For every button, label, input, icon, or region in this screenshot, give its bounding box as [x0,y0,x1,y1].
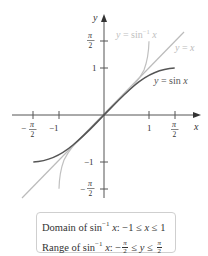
y-tick-label-1: 1 [92,63,97,73]
y-tick-label-minus: − [80,184,85,194]
sin-label: y = sin x [153,75,188,86]
domain-rest: : −1 ≤ [117,222,145,233]
range-rest: : − [110,241,121,252]
x-axis-label: x [193,121,199,132]
arcsin-label: y = sin−1 x [115,28,157,40]
x-tick-label-two: 2 [173,130,177,139]
x-tick-label-neg-two: 2 [31,130,35,139]
y-tick-label-pi: π [88,31,93,40]
range-frac-high: π2 [157,240,163,255]
range-var: x [103,241,110,252]
domain-line: Domain of sin−1 x: −1 ≤ x ≤ 1 [42,216,175,236]
domain-sup: −1 [102,220,109,228]
x-tick-label-1: 1 [147,123,152,133]
range-line: Range of sin−1 x: −π2 ≤ y ≤ π2 [42,236,175,256]
domain-end: ≤ 1 [149,222,165,233]
range-le: ≤ [145,241,156,252]
y-tick-label-neg-pi: π [88,179,93,188]
y-tick-label-neg-two: 2 [89,189,93,198]
domain-var: x [110,222,117,233]
domain-range-box: Domain of sin−1 x: −1 ≤ x ≤ 1 Range of s… [36,212,176,253]
y-axis-arrow-icon [101,14,107,22]
frac-den: 2 [122,248,128,255]
y-tick-label-two: 2 [89,41,93,50]
x-tick-label-minus: − [21,123,26,133]
x-tick-label-neg-pi: π [30,120,35,129]
domain-text: Domain of sin [42,222,102,233]
x-tick-label-neg-1: −1 [49,123,59,133]
y-axis-label: y [92,12,98,23]
y-tick-label-neg-1: −1 [84,157,94,167]
range-mid: ≤ [129,241,140,252]
x-axis-arrow-icon [193,112,201,118]
identity-label: y = x [174,42,195,53]
range-sup: −1 [95,240,102,248]
range-frac-low: π2 [122,240,128,255]
frac-den: 2 [157,248,163,255]
x-tick-label-pi: π [172,120,177,129]
range-text: Range of sin [42,241,95,252]
